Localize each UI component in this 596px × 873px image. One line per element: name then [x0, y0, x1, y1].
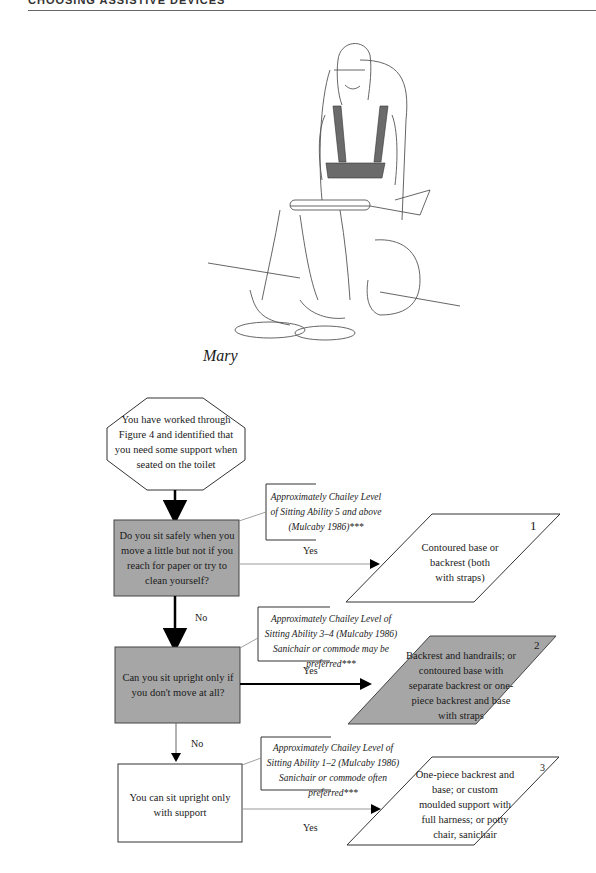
q2-yes-label: Yes	[303, 665, 318, 676]
q1-no-label: No	[195, 612, 207, 623]
outcome-3-number: 3	[540, 762, 545, 773]
q3-yes-label: Yes	[303, 822, 318, 833]
question-3-text: You can sit upright only with support	[128, 790, 232, 820]
outcome-3-text: One-piece backrest and base; or custom m…	[415, 767, 515, 842]
outcome-1-number: 1	[530, 518, 537, 534]
q2-no-label: No	[191, 738, 203, 749]
question-1-text: Do you sit safely when you move a little…	[118, 528, 236, 588]
outcome-2-text: Backrest and handrails; or contoured bas…	[406, 648, 516, 723]
note-1-text: Approximately Chailey Level of Sitting A…	[270, 490, 382, 535]
note-3-text: Approximately Chailey Level of Sitting A…	[264, 741, 402, 801]
note-2-text: Approximately Chailey Level of Sitting A…	[262, 612, 400, 672]
q1-yes-label: Yes	[303, 545, 318, 556]
start-text: You have worked through Figure 4 and ide…	[110, 412, 242, 472]
outcome-1-text: Contoured base or backrest (both with st…	[420, 540, 500, 585]
outcome-2-number: 2	[534, 639, 540, 651]
question-2-text: Can you sit upright only if you don't mo…	[122, 670, 234, 700]
